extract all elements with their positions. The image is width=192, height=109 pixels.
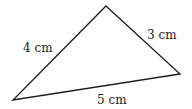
triangle-diagram: 4 cm 3 cm 5 cm	[0, 0, 192, 109]
side-label-left: 4 cm	[23, 41, 53, 55]
side-label-bottom: 5 cm	[97, 93, 127, 107]
side-label-right: 3 cm	[147, 28, 177, 42]
